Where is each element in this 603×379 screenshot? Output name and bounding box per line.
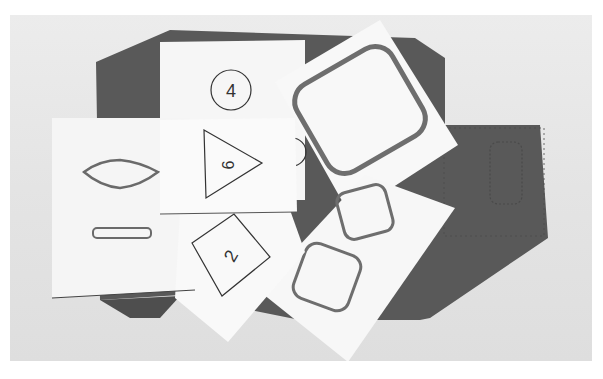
photo-scene: 4 9 2 bbox=[10, 15, 592, 361]
triangle-card-label: 9 bbox=[219, 161, 236, 170]
photo-caption bbox=[10, 366, 592, 379]
photo: 4 9 2 bbox=[10, 15, 592, 361]
triangle-card: 9 bbox=[160, 118, 297, 214]
circle-card-label: 4 bbox=[226, 81, 236, 101]
